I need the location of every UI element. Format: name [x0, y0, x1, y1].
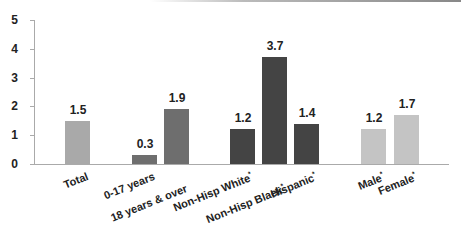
bar: [65, 121, 90, 164]
bar-value-label: 1.4: [287, 107, 327, 119]
y-axis: [34, 20, 35, 164]
y-tick-label: 0: [4, 158, 18, 170]
y-tick-label: 2: [4, 100, 18, 112]
bar-value-label: 1.5: [58, 104, 98, 116]
bar-value-label: 1.2: [354, 112, 394, 124]
y-tick: [30, 135, 34, 136]
bar: [294, 124, 319, 164]
bar-value-label: 1.2: [223, 112, 263, 124]
bar-value-label: 1.9: [157, 92, 197, 104]
bar: [361, 129, 386, 164]
bar: [164, 109, 189, 164]
x-category-label: Total: [61, 170, 89, 191]
bar: [132, 155, 157, 164]
y-tick: [30, 78, 34, 79]
y-tick-label: 5: [4, 14, 18, 26]
top-border-line: [150, 0, 461, 2]
y-tick-label: 3: [4, 72, 18, 84]
x-axis: [34, 164, 449, 165]
bar: [394, 115, 419, 164]
bar-value-label: 1.7: [387, 98, 427, 110]
x-category-label: Hispanic*: [269, 170, 319, 200]
y-tick: [30, 164, 34, 165]
bar: [230, 129, 255, 164]
bar-value-label: 3.7: [255, 40, 295, 52]
y-tick-label: 1: [4, 129, 18, 141]
y-tick-label: 4: [4, 43, 18, 55]
bar: [262, 57, 287, 164]
y-tick: [30, 20, 34, 21]
bar-value-label: 0.3: [125, 138, 165, 150]
y-tick: [30, 106, 34, 107]
y-tick: [30, 49, 34, 50]
